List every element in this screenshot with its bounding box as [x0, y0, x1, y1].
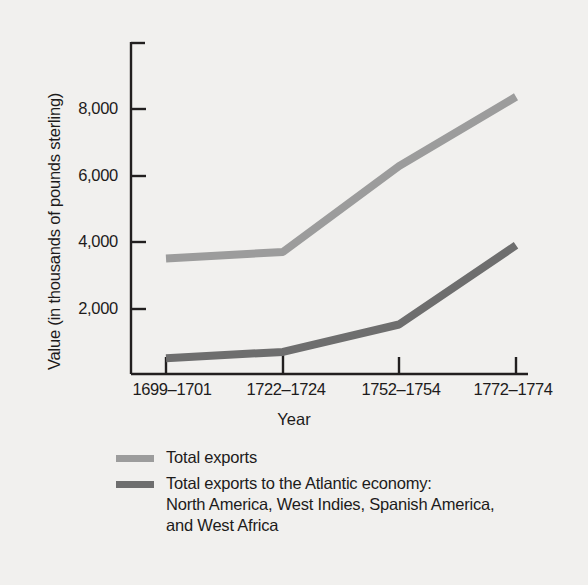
y-tick-label-2000: 2,000	[78, 299, 118, 318]
x-tick-label-1772-1774: 1772–1774	[474, 380, 553, 399]
y-tick-label-4000: 4,000	[78, 232, 118, 251]
series-line-atlantic-economy	[166, 245, 516, 358]
chart-figure: Value (in thousands of pounds sterling) …	[0, 0, 588, 585]
legend-swatch-total-exports	[116, 455, 154, 462]
y-tick-label-8000: 8,000	[78, 99, 118, 118]
legend-item-total-exports: Total exports	[116, 447, 546, 468]
legend-item-atlantic-economy: Total exports to the Atlantic economy: N…	[116, 473, 546, 536]
y-tick-label-6000: 6,000	[78, 166, 118, 185]
x-tick-label-1722-1724: 1722–1724	[247, 380, 326, 399]
chart-legend: Total exports Total exports to the Atlan…	[116, 447, 546, 541]
y-tick-labels: 8,000 6,000 4,000 2,000	[0, 0, 118, 585]
x-tick-label-1752-1754: 1752–1754	[362, 380, 441, 399]
series-line-total-exports	[166, 97, 516, 259]
x-axis-title: Year	[0, 410, 588, 429]
x-tick-label-1699-1701: 1699–1701	[133, 380, 212, 399]
legend-label-atlantic-economy: Total exports to the Atlantic economy: N…	[166, 473, 494, 536]
legend-swatch-atlantic-economy	[116, 481, 154, 488]
legend-label-total-exports: Total exports	[166, 447, 257, 468]
